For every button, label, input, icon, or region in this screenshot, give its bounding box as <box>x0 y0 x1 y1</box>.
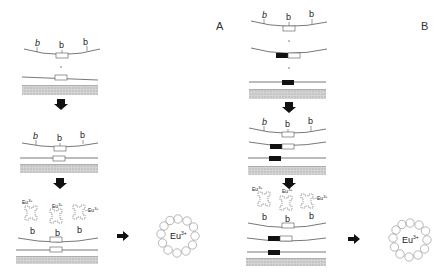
complex-label: Eu3+ <box>402 234 419 245</box>
arrow-down-icon <box>53 178 67 189</box>
ligand-label: b <box>59 40 64 50</box>
panel-b-step-1: b b b <box>249 9 327 99</box>
panel-a-step-2: b b b <box>20 130 98 173</box>
ligand-label: b <box>262 10 267 20</box>
ligand-label: b <box>262 212 267 222</box>
panel-a-step-1: b b b <box>22 37 112 95</box>
ligand-label: b <box>285 119 290 129</box>
ion-label: Eu3+ <box>252 185 263 192</box>
ligand-label: b <box>309 211 314 221</box>
ligand-label: b <box>77 225 82 235</box>
ligand-label: b <box>57 133 62 143</box>
ligand-label: b <box>55 228 60 238</box>
ligand-molecule <box>301 194 313 208</box>
filled-block <box>276 53 288 58</box>
diagram-canvas: b b b b b b <box>0 0 446 279</box>
panel-b: b b b b b b <box>246 9 431 266</box>
ligand-molecule <box>73 205 85 219</box>
ligand-label: b <box>262 117 267 127</box>
ion-label: Eu3+ <box>317 194 328 201</box>
ligand-label: b <box>35 38 40 48</box>
arrow-down-icon <box>282 102 296 113</box>
arrow-down-icon <box>54 99 68 110</box>
panel-b-step-2: b b b <box>248 116 326 175</box>
ligand-molecule <box>258 192 270 206</box>
ligand-label: b <box>285 214 290 224</box>
ion-label: Eu3+ <box>52 202 63 209</box>
ligand-label: b <box>80 130 85 140</box>
ion-label: Eu3+ <box>22 198 33 205</box>
panel-a: b b b b b b <box>16 37 199 264</box>
ion-label: Eu3+ <box>88 206 99 213</box>
open-block <box>56 53 68 58</box>
ligand-label: b <box>83 37 88 47</box>
ligand-label: b <box>30 226 35 236</box>
arrow-right-icon <box>117 231 129 241</box>
arrow-right-icon <box>348 234 360 244</box>
panel-b-step-3: Eu3+ Eu3+ Eu3+ b b b <box>246 185 328 266</box>
ligand-label: b <box>33 131 38 141</box>
eu-complex: Eu3+ <box>157 215 199 257</box>
ligand-label: b <box>309 9 314 19</box>
ligand-molecule <box>25 206 37 220</box>
ligand-label: b <box>286 12 291 22</box>
open-block <box>55 75 67 80</box>
ligand-molecule <box>280 196 292 210</box>
eu-complex: Eu3+ <box>389 219 431 261</box>
ion-label: Eu3+ <box>282 187 293 194</box>
ligand-molecule <box>50 209 62 223</box>
panel-a-step-3: Eu3+ Eu3+ Eu3+ b b b <box>16 198 99 264</box>
complex-label: Eu3+ <box>170 230 187 241</box>
substrate <box>22 86 98 95</box>
ligand-label: b <box>308 116 313 126</box>
